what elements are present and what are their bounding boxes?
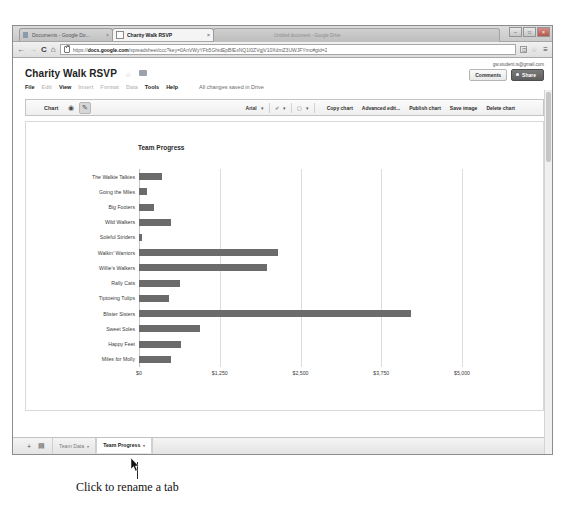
copy-chart-button[interactable]: Copy chart <box>327 105 353 111</box>
chart-bar[interactable] <box>139 173 162 180</box>
toolbar-divider <box>269 103 270 113</box>
chart-bar-row: Sweet Soles <box>139 321 462 336</box>
folder-icon[interactable] <box>139 70 147 76</box>
url-path: /spreadsheet/ccc?key=0AnVWyYFb5GhidEpBfE… <box>129 47 328 53</box>
address-bar[interactable]: https://docs.google.com/spreadsheet/ccc?… <box>60 44 517 55</box>
chart-bar[interactable] <box>139 295 169 302</box>
chart-bar-row: Big Footers <box>139 199 462 214</box>
sheet-tab-team-data[interactable]: Team Data ▾ <box>52 438 96 454</box>
chart-bar[interactable] <box>139 341 181 348</box>
menu-help[interactable]: Help <box>166 84 178 90</box>
docs-header: Charity Walk RSVP ☆ File Edit View Inser… <box>13 58 552 96</box>
preview-eye-icon[interactable]: ◉ <box>65 102 77 114</box>
window-controls: – □ × <box>509 27 550 37</box>
window-close-button[interactable]: × <box>537 27 550 37</box>
chart-category-label: The Walkie Talkies <box>92 174 135 180</box>
border-style-icon[interactable]: ▢ <box>297 105 302 111</box>
chart-gridline <box>462 169 463 367</box>
chart-bar-row: Wild Walkers <box>139 215 462 230</box>
chart-bar[interactable] <box>139 219 171 226</box>
spreadsheet-favicon-icon <box>116 31 124 39</box>
menu-data[interactable]: Data <box>126 84 138 90</box>
browser-tab-charity-walk-rsvp[interactable]: Charity Walk RSVP × <box>112 28 214 41</box>
chart-bar[interactable] <box>139 264 267 271</box>
edit-pencil-icon[interactable]: ✎ <box>79 102 91 114</box>
back-icon[interactable]: ← <box>17 46 25 54</box>
fill-color-icon[interactable]: ✐ <box>275 105 279 111</box>
save-image-button[interactable]: Save image <box>450 105 478 111</box>
home-icon[interactable]: ⌂ <box>51 46 56 54</box>
font-caret-icon[interactable]: ▾ <box>261 105 264 111</box>
chevron-down-icon[interactable]: ▾ <box>87 441 89 452</box>
chart-category-label: Sweet Soles <box>106 326 135 332</box>
url-scheme: https:// <box>73 47 88 53</box>
minimize-button[interactable]: – <box>509 27 522 37</box>
url-domain: docs.google.com <box>88 47 129 53</box>
chart-bar[interactable] <box>139 234 142 241</box>
chart-bar[interactable] <box>139 356 171 363</box>
chart-toolbar: Chart ◉ ✎ Arial ▾ ✐ ▾ ▢ ▾ Copy chart Adv… <box>25 99 544 116</box>
browser-window: Untitled document - Google Drive Documen… <box>12 25 553 455</box>
bookmark-star-icon[interactable]: ☆ <box>530 46 537 53</box>
chart-bar[interactable] <box>139 325 200 332</box>
chart-canvas[interactable]: Team Progress The Walkie TalkiesGoing th… <box>25 121 544 411</box>
maximize-button[interactable]: □ <box>523 27 536 37</box>
browser-tab-documents[interactable]: Documents - Google Do... × <box>19 28 113 41</box>
comments-button[interactable]: Comments <box>469 69 507 81</box>
chart-bar-row: Going the Miles <box>139 184 462 199</box>
star-icon[interactable]: ☆ <box>125 71 131 78</box>
sheet-tab-label: Team Data <box>59 441 84 452</box>
document-title[interactable]: Charity Walk RSVP <box>25 68 117 79</box>
add-sheet-icon[interactable]: + <box>27 443 31 450</box>
chart-bar-row: Soleful Striders <box>139 230 462 245</box>
account-email[interactable]: gw.student.ts@gmail.com <box>469 62 544 67</box>
chart-x-tick-label: $0 <box>136 370 142 376</box>
docs-header-right: gw.student.ts@gmail.com Comments Share <box>469 62 544 81</box>
chart-category-label: Miles for Molly <box>102 356 135 362</box>
close-icon[interactable]: × <box>207 32 210 38</box>
chart-bar-row: Willie's Walkers <box>139 260 462 275</box>
omnibox-actions: ☑ ☆ ≡ <box>520 46 548 53</box>
chart-bar[interactable] <box>139 204 154 211</box>
browser-menu-icon[interactable]: ≡ <box>543 46 548 53</box>
chart-category-label: Willie's Walkers <box>99 265 135 271</box>
chart-plot-area: The Walkie TalkiesGoing the MilesBig Foo… <box>139 169 462 367</box>
save-to-drive-icon[interactable]: ☑ <box>520 46 527 53</box>
chart-bar[interactable] <box>139 188 147 195</box>
chart-toolbar-label: Chart <box>44 105 58 111</box>
menu-tools[interactable]: Tools <box>145 84 159 90</box>
chart-bar-row: Happy Feet <box>139 336 462 351</box>
menu-insert[interactable]: Insert <box>78 84 93 90</box>
chart-bar[interactable] <box>139 310 411 317</box>
advanced-edit-button[interactable]: Advanced edit... <box>362 105 400 111</box>
forward-icon[interactable]: → <box>29 46 37 54</box>
close-icon[interactable]: × <box>106 32 109 38</box>
fill-caret-icon[interactable]: ▾ <box>283 105 286 111</box>
chart-bar[interactable] <box>139 249 278 256</box>
border-caret-icon[interactable]: ▾ <box>306 105 309 111</box>
delete-chart-button[interactable]: Delete chart <box>486 105 515 111</box>
reload-icon[interactable]: C <box>41 46 47 54</box>
chart-category-label: Blister Sisters <box>103 311 135 317</box>
all-sheets-icon[interactable]: ▤ <box>38 442 45 450</box>
menu-edit[interactable]: Edit <box>41 84 51 90</box>
toolbar-divider <box>291 103 292 113</box>
browser-tab-label: Charity Walk RSVP <box>127 32 203 38</box>
publish-chart-button[interactable]: Publish chart <box>409 105 441 111</box>
chart-bar-row: Walkin' Warriors <box>139 245 462 260</box>
share-button[interactable]: Share <box>511 69 544 81</box>
menu-format[interactable]: Format <box>100 84 119 90</box>
scrollbar-thumb[interactable] <box>546 92 551 162</box>
chevron-down-icon[interactable]: ▾ <box>143 440 145 451</box>
chart-bar-row: Blister Sisters <box>139 306 462 321</box>
chart-category-label: Soleful Striders <box>100 234 135 240</box>
chart-bar[interactable] <box>139 280 180 287</box>
toolbar-divider <box>314 103 315 113</box>
font-name-select[interactable]: Arial <box>246 105 257 111</box>
page-scrollbar[interactable] <box>544 90 552 454</box>
chart-bar-row: The Walkie Talkies <box>139 169 462 184</box>
menu-view[interactable]: View <box>59 84 71 90</box>
browser-tab-label: Documents - Google Do... <box>32 32 102 38</box>
menu-file[interactable]: File <box>25 84 34 90</box>
sheet-tab-team-progress[interactable]: Team Progress ▾ <box>96 437 152 453</box>
